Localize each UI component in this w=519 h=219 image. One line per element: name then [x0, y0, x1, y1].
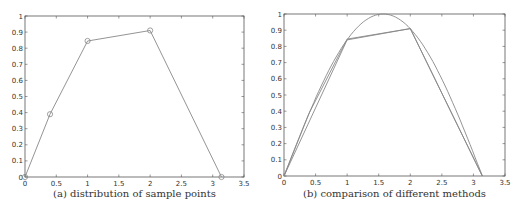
y-tick-label: 0.2 — [271, 140, 282, 148]
y-tick-label: 1 — [19, 13, 23, 21]
x-tick-label: 2.5 — [436, 179, 447, 187]
y-tick-label: 0.3 — [271, 124, 282, 132]
figure: 00.511.522.533.500.10.20.30.40.50.60.70.… — [0, 0, 519, 219]
x-tick-label: 1.5 — [373, 179, 384, 187]
x-tick-label: 0.5 — [310, 179, 321, 187]
x-tick-label: 0 — [23, 180, 27, 188]
series-line-0 — [284, 14, 482, 176]
chart-a: 00.511.522.533.500.10.20.30.40.50.60.70.… — [12, 13, 250, 200]
x-tick-label: 3.5 — [499, 179, 510, 187]
x-tick-label: 3 — [471, 179, 475, 187]
x-tick-label: 0 — [282, 179, 286, 187]
x-tick-label: 2 — [408, 179, 412, 187]
x-tick-label: 0.5 — [51, 180, 62, 188]
chart-caption: (a) distribution of sample points — [53, 188, 216, 199]
y-tick-label: 1 — [278, 11, 282, 19]
y-tick-label: 0.7 — [12, 61, 23, 69]
x-tick-label: 2 — [148, 180, 152, 188]
y-tick-label: 0.6 — [271, 75, 283, 83]
x-tick-label: 1 — [85, 180, 89, 188]
y-tick-label: 0.2 — [12, 141, 23, 149]
y-tick-label: 0 — [278, 173, 282, 181]
y-tick-label: 0.4 — [12, 109, 24, 117]
plot-frame — [25, 16, 244, 177]
chart-b: 00.511.522.533.500.10.20.30.40.50.60.70.… — [271, 11, 511, 200]
x-tick-label: 1 — [345, 179, 349, 187]
y-tick-label: 0.8 — [271, 43, 282, 51]
x-tick-label: 3.5 — [238, 180, 249, 188]
y-tick-label: 0.7 — [271, 59, 282, 67]
y-tick-label: 0.4 — [271, 108, 283, 116]
x-tick-label: 1.5 — [113, 180, 124, 188]
y-tick-label: 0.6 — [12, 77, 24, 85]
x-tick-label: 2.5 — [176, 180, 187, 188]
series-line-0 — [25, 31, 222, 178]
y-tick-label: 0.5 — [271, 92, 282, 100]
y-tick-label: 0.8 — [12, 45, 23, 53]
chart-caption: (b) comparison of different methods — [303, 188, 486, 199]
y-tick-label: 0.1 — [271, 156, 282, 164]
y-tick-label: 0.5 — [12, 93, 23, 101]
y-tick-label: 0.3 — [12, 125, 23, 133]
y-tick-label: 0.9 — [12, 29, 23, 37]
y-tick-label: 0.9 — [271, 27, 282, 35]
y-tick-label: 0.1 — [12, 157, 23, 165]
x-tick-label: 3 — [210, 180, 214, 188]
